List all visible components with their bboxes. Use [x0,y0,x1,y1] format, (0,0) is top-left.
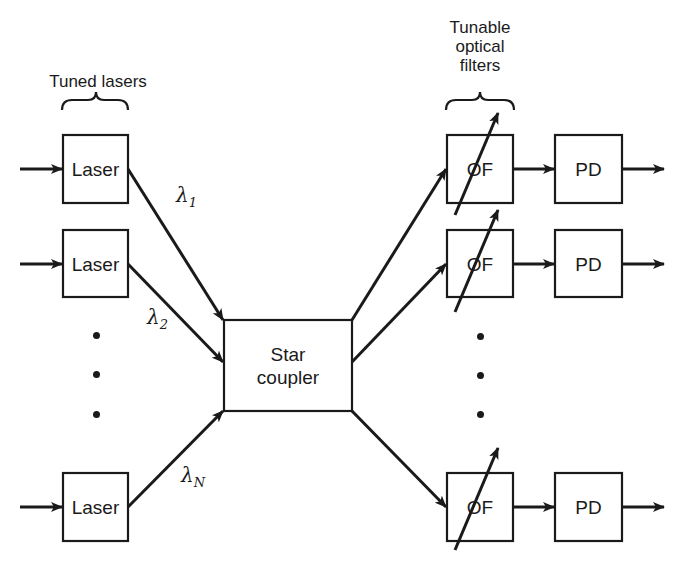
wavelength-label-1: λ1 [176,183,197,210]
ellipsis-dot-right-3 [477,411,484,418]
laser-label-1: Laser [63,160,128,179]
detector-label-2: PD [555,255,622,274]
detector-label-1: PD [555,160,622,179]
ellipsis-dot-right-1 [477,333,484,340]
tunable-filters-header-line1: Tunable [430,18,530,37]
tunable-filters-header: Tunable optical filters [430,18,530,75]
filter-label-2: OF [447,255,513,274]
fiber-coupler-filter1 [352,169,446,320]
star-coupler-label: Star coupler [224,343,352,389]
ellipsis-dot-left-1 [93,332,100,339]
laser-label-n: Laser [63,498,128,517]
detector-label-n: PD [555,498,622,517]
tunable-filters-header-line3: filters [430,56,530,75]
brace-tunable-filters [446,92,514,110]
brace-tuned-lasers [62,92,128,110]
tunable-filters-header-line2: optical [430,37,530,56]
fiber-coupler-filter2 [352,264,446,362]
fiber-coupler-filtern [352,411,446,507]
star-coupler-label-line2: coupler [224,366,352,389]
ellipsis-dot-right-2 [477,372,484,379]
ellipsis-dot-left-3 [93,411,100,418]
tuned-lasers-header: Tuned lasers [38,72,158,91]
laser-label-2: Laser [63,255,128,274]
filter-label-1: OF [447,160,513,179]
filter-label-n: OF [447,498,513,517]
fiber-lasern-coupler [128,411,223,507]
ellipsis-dot-left-2 [93,371,100,378]
star-coupler-label-line1: Star [224,343,352,366]
wavelength-label-n: λN [181,463,205,490]
wavelength-label-2: λ2 [147,305,168,332]
fiber-laser2-coupler [128,264,223,362]
